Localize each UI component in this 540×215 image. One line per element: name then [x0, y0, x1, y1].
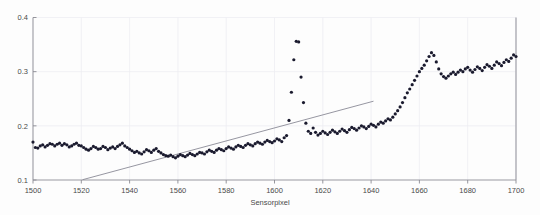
- data-point: [41, 143, 44, 146]
- data-point: [456, 71, 459, 74]
- data-point: [142, 150, 145, 153]
- data-point: [411, 83, 414, 86]
- data-point: [497, 62, 500, 65]
- data-point: [36, 146, 39, 149]
- data-point: [430, 51, 433, 54]
- scatter-chart: 1500152015401560158016001620164016601680…: [0, 0, 540, 215]
- data-point: [285, 134, 288, 137]
- data-point: [299, 75, 302, 78]
- x-tick-label: 1680: [459, 186, 476, 195]
- data-point: [514, 55, 517, 58]
- data-point: [304, 122, 307, 125]
- data-point: [328, 131, 331, 134]
- data-point: [500, 64, 503, 67]
- data-point: [452, 71, 455, 74]
- data-point: [420, 67, 423, 70]
- data-point: [432, 54, 435, 57]
- trendline: [83, 101, 374, 180]
- x-tick-label: 1560: [170, 186, 187, 195]
- x-tick-label: 1600: [266, 186, 283, 195]
- data-point: [435, 60, 438, 63]
- data-point: [374, 125, 377, 128]
- tick-labels: 1500152015401560158016001620164016601680…: [18, 13, 525, 195]
- data-point: [203, 152, 206, 155]
- data-point: [415, 74, 418, 77]
- data-point: [121, 142, 124, 145]
- data-point: [75, 142, 78, 145]
- data-point: [99, 147, 102, 150]
- y-tick-label: 0.3: [18, 67, 28, 76]
- data-point: [283, 136, 286, 139]
- x-tick-label: 1660: [411, 186, 428, 195]
- data-point: [348, 128, 351, 131]
- data-point: [290, 91, 293, 94]
- data-point: [394, 112, 397, 115]
- data-point: [490, 67, 493, 70]
- data-point: [58, 142, 61, 145]
- data-point: [114, 147, 117, 150]
- data-point: [357, 126, 360, 129]
- data-point: [382, 122, 385, 125]
- data-point: [338, 130, 341, 133]
- data-point: [384, 119, 387, 122]
- data-point: [493, 64, 496, 67]
- data-point: [488, 65, 491, 68]
- data-point: [155, 147, 158, 150]
- data-point: [440, 72, 443, 75]
- data-point: [461, 70, 464, 73]
- data-point: [213, 151, 216, 154]
- data-point: [302, 101, 305, 104]
- data-point: [104, 146, 107, 149]
- x-tick-label: 1580: [218, 186, 235, 195]
- data-point: [65, 143, 68, 146]
- data-point: [447, 74, 450, 77]
- data-point: [481, 69, 484, 72]
- x-tick-label: 1520: [73, 186, 90, 195]
- data-point: [483, 66, 486, 69]
- data-point: [377, 123, 380, 126]
- data-point: [396, 109, 399, 112]
- data-point: [391, 116, 394, 119]
- data-point: [261, 143, 264, 146]
- data-point: [336, 132, 339, 135]
- x-tick-label: 1620: [314, 186, 331, 195]
- x-tick-label: 1540: [121, 186, 138, 195]
- y-tick-label: 0.4: [18, 13, 28, 22]
- data-point: [355, 129, 358, 132]
- data-point: [401, 101, 404, 104]
- chart-canvas: 1500152015401560158016001620164016601680…: [0, 0, 540, 215]
- data-point: [469, 68, 472, 71]
- data-point: [427, 55, 430, 58]
- data-point: [454, 73, 457, 76]
- data-point: [398, 105, 401, 108]
- data-point: [471, 71, 474, 74]
- data-point: [287, 119, 290, 122]
- data-point: [406, 91, 409, 94]
- data-point: [478, 67, 481, 70]
- data-point: [423, 64, 426, 67]
- data-point: [413, 79, 416, 82]
- data-point: [292, 58, 295, 61]
- data-point: [251, 144, 254, 147]
- x-tick-label: 1700: [508, 186, 525, 195]
- data-point: [466, 66, 469, 69]
- data-point: [444, 77, 447, 80]
- data-point: [242, 146, 245, 149]
- x-tick-label: 1500: [25, 186, 42, 195]
- data-point: [473, 68, 476, 71]
- y-tick-label: 0.2: [18, 122, 28, 131]
- data-point: [232, 148, 235, 151]
- data-point: [403, 96, 406, 99]
- data-point: [307, 130, 310, 133]
- data-point: [280, 140, 283, 143]
- data-point: [389, 118, 392, 121]
- trendline-segment: [83, 101, 374, 180]
- data-point: [437, 67, 440, 70]
- data-point: [222, 149, 225, 152]
- data-point: [326, 133, 329, 136]
- data-point: [365, 127, 368, 130]
- data-point: [510, 57, 513, 60]
- x-axis-title: Sensorpixel: [250, 198, 290, 207]
- data-point: [309, 132, 312, 135]
- data-point: [408, 87, 411, 90]
